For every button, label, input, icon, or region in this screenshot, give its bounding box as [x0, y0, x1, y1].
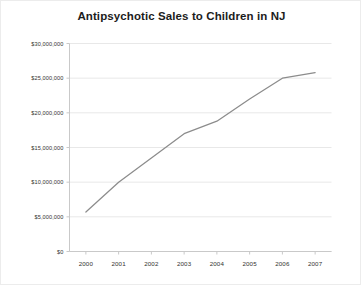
chart-container: Antipsychotic Sales to Children in NJ $0… — [0, 0, 361, 285]
y-axis-tick-label: $5,000,000 — [5, 214, 64, 220]
y-axis-tick-label: $15,000,000 — [5, 145, 64, 151]
x-axis-tick-label: 2007 — [308, 260, 322, 267]
y-axis-tick-label: $0 — [5, 249, 64, 255]
y-axis-tick-label: $10,000,000 — [5, 179, 64, 185]
y-axis-tick-label: $20,000,000 — [5, 110, 64, 116]
x-axis-tick-label: 2002 — [144, 260, 158, 267]
x-axis-tick-label: 2006 — [275, 260, 289, 267]
x-axis-tick-label: 2001 — [112, 260, 126, 267]
x-axis-tick-label: 2000 — [79, 260, 93, 267]
y-axis-tick-label: $25,000,000 — [5, 75, 64, 81]
x-axis-tick-label: 2004 — [210, 260, 224, 267]
x-axis-tick-label: 2005 — [243, 260, 257, 267]
y-axis-tick-label: $30,000,000 — [5, 41, 64, 47]
data-series-line — [86, 73, 315, 212]
x-axis-tick-label: 2003 — [177, 260, 191, 267]
